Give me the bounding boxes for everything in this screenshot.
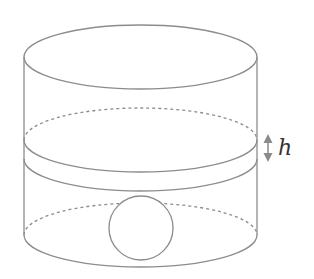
height-label: h xyxy=(278,135,292,160)
arrow-up-icon xyxy=(264,134,273,143)
water-level-upper-arc xyxy=(24,140,257,172)
upper-dashed-ellipse xyxy=(24,108,257,140)
water-level-lower-arc xyxy=(24,159,257,191)
arrow-down-icon xyxy=(264,153,273,162)
cylinder-top-ellipse xyxy=(24,25,257,89)
sphere xyxy=(109,196,173,260)
cylinder-diagram: h xyxy=(0,0,314,279)
height-arrow xyxy=(264,134,273,162)
